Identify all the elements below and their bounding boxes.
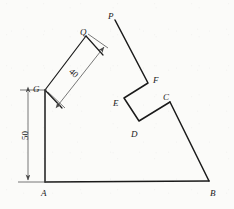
edge-G-S (45, 90, 62, 108)
vertex-label-a: A (41, 189, 47, 198)
edge-A-B (45, 181, 209, 182)
vertex-label-q: Q (80, 28, 87, 37)
polyline-P-F-E-D-C (115, 20, 170, 121)
geometry-figure: A B C D E F G P Q 50 40 (0, 0, 234, 209)
dim-line-40 (59, 47, 104, 104)
vertex-label-p: P (108, 12, 114, 21)
vertex-label-g: G (33, 85, 40, 94)
dimension-value-50: 50 (21, 131, 30, 140)
edge-C-B (170, 102, 209, 181)
vertex-label-d: D (131, 130, 138, 139)
vertex-label-c: C (163, 93, 169, 102)
zigzag-chain (115, 20, 170, 121)
vertex-label-b: B (210, 189, 216, 198)
edge-G-Q (45, 36, 86, 90)
vertex-label-f: F (153, 76, 159, 85)
vertex-label-e: E (113, 99, 119, 108)
